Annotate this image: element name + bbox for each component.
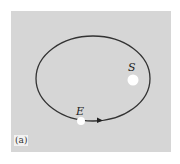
sun-label: S	[128, 62, 136, 73]
sun-body	[128, 75, 139, 86]
earth-label: E	[76, 106, 84, 117]
direction-arrow-icon	[97, 118, 103, 124]
panel-label: (a)	[14, 135, 28, 146]
earth-body	[77, 117, 85, 125]
